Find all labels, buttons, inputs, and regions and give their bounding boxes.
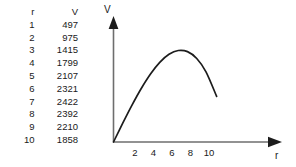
x-tick-label: 10 <box>204 147 215 158</box>
cell-r: 10 <box>10 134 34 147</box>
table-header-row: r V <box>10 6 82 19</box>
cell-v: 975 <box>34 32 82 45</box>
table-body: 1 497 2 975 3 1415 4 1799 5 2107 6 2321 <box>10 19 82 147</box>
table-row: 8 2392 <box>10 108 82 121</box>
data-table: r V 1 497 2 975 3 1415 4 1799 5 <box>10 6 82 147</box>
cell-r: 5 <box>10 70 34 83</box>
cell-r: 4 <box>10 57 34 70</box>
table-row: 3 1415 <box>10 44 82 57</box>
table-row: 7 2422 <box>10 96 82 109</box>
data-curve <box>114 50 217 142</box>
cell-v: 2107 <box>34 70 82 83</box>
x-tick-label: 2 <box>132 147 137 158</box>
table-header: r V <box>10 6 82 19</box>
column-header-r: r <box>10 6 34 19</box>
y-axis-arrow-icon <box>109 16 119 29</box>
cell-v: 2392 <box>34 108 82 121</box>
cell-r: 3 <box>10 44 34 57</box>
table-row: 5 2107 <box>10 70 82 83</box>
table-row: 10 1858 <box>10 134 82 147</box>
cell-r: 7 <box>10 96 34 109</box>
x-tick-label: 6 <box>169 147 174 158</box>
y-axis-label: V <box>104 4 111 15</box>
x-axis-label: r <box>275 150 279 161</box>
x-axis-arrow-icon <box>268 137 282 147</box>
cell-r: 2 <box>10 32 34 45</box>
table-row: 4 1799 <box>10 57 82 70</box>
cell-r: 1 <box>10 19 34 32</box>
chart-svg: V r 2 4 6 8 10 <box>96 0 296 167</box>
table-row: 2 975 <box>10 32 82 45</box>
cell-v: 497 <box>34 19 82 32</box>
table-row: 1 497 <box>10 19 82 32</box>
cell-v: 2210 <box>34 121 82 134</box>
cell-v: 1858 <box>34 134 82 147</box>
x-tick-label: 4 <box>151 147 156 158</box>
figure-container: r V 1 497 2 975 3 1415 4 1799 5 <box>0 0 296 167</box>
cell-r: 6 <box>10 83 34 96</box>
column-header-v: V <box>34 6 82 19</box>
table-row: 9 2210 <box>10 121 82 134</box>
cell-v: 1799 <box>34 57 82 70</box>
cell-r: 9 <box>10 121 34 134</box>
cell-v: 2321 <box>34 83 82 96</box>
cell-v: 1415 <box>34 44 82 57</box>
cell-r: 8 <box>10 108 34 121</box>
cell-v: 2422 <box>34 96 82 109</box>
chart: V r 2 4 6 8 10 <box>96 0 296 167</box>
table-row: 6 2321 <box>10 83 82 96</box>
x-tick-label: 8 <box>188 147 193 158</box>
